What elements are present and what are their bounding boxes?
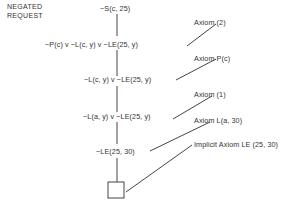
empty-clause-box bbox=[108, 182, 124, 198]
step-node-4: ~L(a, y) v ~LE(25, y) bbox=[83, 113, 151, 121]
step-node-1: ~S(c, 25) bbox=[100, 5, 130, 13]
negated-request-label: NEGATED REQUEST bbox=[7, 3, 43, 20]
axiom-connector-1 bbox=[187, 24, 216, 46]
negated-request-line2: REQUEST bbox=[7, 12, 43, 21]
resolution-tree-lines bbox=[0, 0, 294, 206]
axiom-label-4: Axiom L(a, 30) bbox=[194, 117, 242, 125]
axiom-label-5: Implicit Axiom LE (25, 30) bbox=[194, 141, 278, 149]
axiom-label-1: Axiom (2) bbox=[194, 19, 226, 27]
axiom-label-2: Axiom P(c) bbox=[194, 55, 230, 63]
step-node-2: ~P(c) v ~L(c, y) v ~LE(25, y) bbox=[45, 41, 138, 49]
step-node-3: ~L(c, y) v ~LE(25, y) bbox=[84, 76, 151, 84]
axiom-connector-5 bbox=[126, 145, 192, 192]
negated-request-line1: NEGATED bbox=[7, 3, 43, 12]
step-node-5: ~LE(25, 30) bbox=[96, 148, 135, 156]
axiom-label-3: Axiom (1) bbox=[194, 91, 226, 99]
